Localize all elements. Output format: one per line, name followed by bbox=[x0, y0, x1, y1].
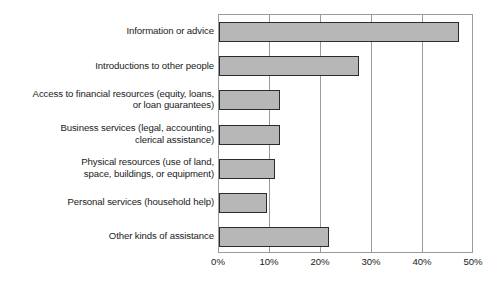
bar bbox=[219, 125, 280, 145]
category-axis-labels: Information or adviceIntroductions to ot… bbox=[0, 14, 214, 253]
bar bbox=[219, 159, 275, 179]
category-label: Business services (legal, accounting, cl… bbox=[0, 122, 214, 145]
x-tick-label: 50% bbox=[463, 256, 482, 268]
category-label: Physical resources (use of land, space, … bbox=[0, 156, 214, 179]
bar-series bbox=[219, 15, 472, 252]
category-label: Introductions to other people bbox=[0, 60, 214, 71]
bar-chart: Information or adviceIntroductions to ot… bbox=[0, 0, 498, 289]
x-tick-label: 30% bbox=[361, 256, 380, 268]
category-label: Other kinds of assistance bbox=[0, 230, 214, 241]
x-tick-label: 10% bbox=[259, 256, 278, 268]
bar bbox=[219, 56, 359, 76]
plot-area bbox=[218, 14, 473, 253]
bar bbox=[219, 90, 280, 110]
x-tick-label: 20% bbox=[310, 256, 329, 268]
category-label: Access to financial resources (equity, l… bbox=[0, 88, 214, 111]
bar bbox=[219, 227, 329, 247]
bar bbox=[219, 22, 459, 42]
x-tick-label: 0% bbox=[211, 256, 225, 268]
bar bbox=[219, 193, 267, 213]
category-label: Personal services (household help) bbox=[0, 196, 214, 207]
value-axis-tick-labels: 0%10%20%30%40%50% bbox=[218, 256, 473, 276]
category-label: Information or advice bbox=[0, 25, 214, 36]
x-tick-label: 40% bbox=[412, 256, 431, 268]
